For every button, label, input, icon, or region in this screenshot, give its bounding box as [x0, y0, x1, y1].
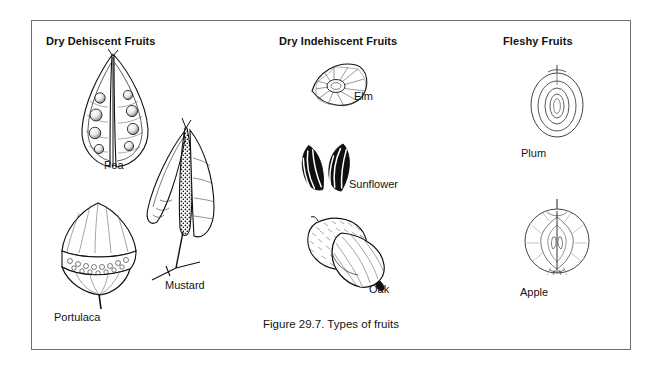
plum-illustration: [521, 63, 593, 143]
label-apple: Apple: [520, 286, 548, 298]
column-header-fleshy: Fleshy Fruits: [503, 35, 573, 47]
column-header-dry-indehiscent: Dry Indehiscent Fruits: [279, 35, 397, 47]
mustard-illustration: [140, 116, 236, 286]
figure-frame: Dry Dehiscent Fruits Dry Indehiscent Fru…: [31, 20, 631, 350]
portulaca-illustration: [46, 197, 150, 309]
label-oak: Oak: [369, 283, 389, 295]
apple-illustration: [517, 199, 597, 281]
label-plum: Plum: [521, 147, 546, 159]
figure-page: Dry Dehiscent Fruits Dry Indehiscent Fru…: [0, 0, 659, 373]
label-mustard: Mustard: [165, 279, 205, 291]
label-sunflower: Sunflower: [349, 178, 398, 190]
elm-illustration: [304, 59, 376, 111]
label-elm: Elm: [354, 90, 373, 102]
column-header-dry-dehiscent: Dry Dehiscent Fruits: [46, 35, 156, 47]
label-pea: Pea: [104, 159, 124, 171]
figure-caption: Figure 29.7. Types of fruits: [32, 318, 630, 330]
